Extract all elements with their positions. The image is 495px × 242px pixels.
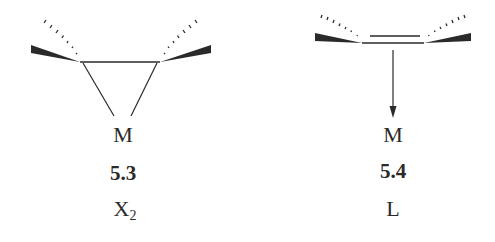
ligand-type-5-4: L xyxy=(386,198,399,220)
chemical-structures-diagram xyxy=(0,0,495,242)
wedge-bond-right xyxy=(160,45,211,62)
mc-bond-right xyxy=(131,63,157,116)
compound-number-5-4: 5.4 xyxy=(380,161,406,182)
compound-number-5-3: 5.3 xyxy=(110,163,136,184)
arrow-head-icon xyxy=(390,106,397,118)
hashed-bond-right xyxy=(429,15,466,36)
structure-5-4 xyxy=(315,15,471,118)
hashed-bond-right xyxy=(164,20,197,54)
wedge-bond-right xyxy=(424,33,471,43)
hashed-bond-left xyxy=(321,15,358,36)
ligand-type-subscript: 2 xyxy=(129,208,136,223)
hashed-bond-left xyxy=(44,20,77,54)
ligand-type-5-3: X2 xyxy=(114,198,137,223)
ligand-type-main: X xyxy=(114,196,130,221)
mc-bond-left xyxy=(83,63,114,116)
metal-label-5-4: M xyxy=(383,124,403,146)
wedge-bond-left xyxy=(315,33,362,43)
structure-5-3 xyxy=(31,20,211,116)
metal-label-5-3: M xyxy=(113,124,133,146)
